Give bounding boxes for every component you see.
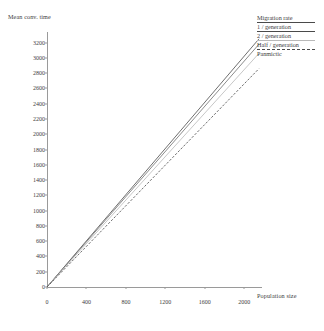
series-line	[47, 39, 259, 287]
legend-label-1-generation: 1 / generation	[257, 23, 319, 31]
legend-label-2-generation: 2 / generation	[257, 32, 319, 40]
legend-label-panmictic: Panmictic	[257, 50, 319, 58]
chart-figure: Mean conv. time Population size 02004006…	[0, 0, 324, 331]
series-line	[47, 69, 259, 287]
series-line	[47, 44, 259, 287]
legend-item-half-generation[interactable]: Half / generation	[257, 41, 319, 49]
legend-item-panmictic[interactable]: Panmictic	[257, 50, 319, 58]
legend: Migration rate 1 / generation 2 / genera…	[257, 14, 319, 58]
series-line	[47, 53, 259, 287]
legend-item-1-generation[interactable]: 1 / generation	[257, 23, 319, 31]
legend-item-2-generation[interactable]: 2 / generation	[257, 32, 319, 40]
legend-title: Migration rate	[257, 14, 319, 22]
legend-label-half-generation: Half / generation	[257, 41, 319, 49]
